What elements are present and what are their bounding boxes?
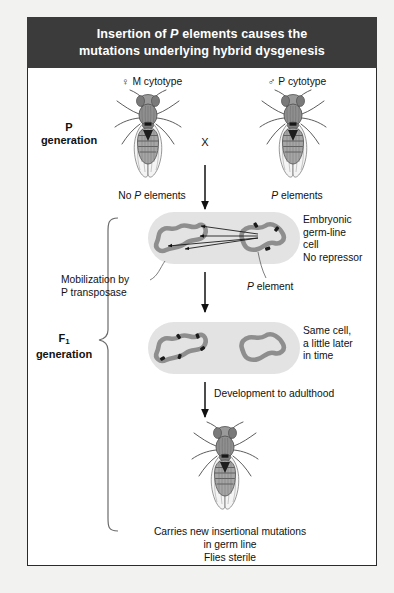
title-line2: mutations underlying hybrid dysgenesis — [79, 44, 325, 58]
outcome-line1: Carries new insertional mutations — [154, 526, 306, 537]
outcome-note: Carries new insertional mutations in ger… — [105, 526, 355, 564]
mobilization-note-line2: P transposase — [61, 287, 127, 298]
male-elements-post: elements — [278, 190, 323, 201]
later-cell-note-line3: in time — [303, 350, 333, 361]
female-elements-post: elements — [141, 190, 186, 201]
f1-generation-subscript: 1 — [65, 337, 69, 346]
embryonic-cell-note-line2: germ-line — [303, 227, 346, 238]
embryonic-cell-note-line4: No repressor — [303, 252, 363, 263]
female-elements-pre: No — [118, 190, 134, 201]
figure-root: Insertion of P elements causes the mutat… — [0, 0, 394, 593]
later-cell-note-line1: Same cell, — [303, 325, 351, 336]
female-parent-label: ♀ M cytotype — [102, 76, 202, 88]
male-elements-label: P elements — [247, 190, 347, 202]
mobilization-note: Mobilization by P transposase — [61, 274, 129, 299]
figure-title: Insertion of P elements causes the mutat… — [69, 26, 335, 60]
development-arrow-label: Development to adulthood — [214, 388, 334, 400]
male-parent-text: P cytotype — [278, 76, 326, 87]
male-symbol-icon: ♂ — [268, 76, 276, 87]
f1-generation-label: F1 generation — [28, 332, 100, 361]
embryonic-cell-note-line3: cell — [303, 239, 318, 250]
female-elements-label: No P elements — [98, 190, 206, 202]
title-line1-italic: P — [170, 27, 179, 41]
p-element-callout-post: element — [254, 281, 294, 292]
figure-title-bar: Insertion of P elements causes the mutat… — [27, 17, 377, 68]
outcome-line3: Flies sterile — [204, 552, 256, 563]
later-cell-note-line2: a little later — [303, 338, 353, 349]
p-generation-line2: generation — [41, 134, 97, 146]
embryonic-cell-note: Embryonic germ-line cell No repressor — [303, 214, 363, 264]
male-parent-label: ♂ P cytotype — [247, 76, 347, 88]
outcome-line2: in germ line — [203, 539, 256, 550]
embryonic-cell-note-line1: Embryonic — [303, 214, 352, 225]
p-generation-line1: P — [65, 121, 72, 133]
title-line1-pre: Insertion of — [97, 27, 170, 41]
female-parent-text: M cytotype — [132, 76, 182, 87]
cross-symbol-text: X — [201, 136, 208, 148]
p-element-callout-italic: P — [247, 281, 254, 292]
later-cell-note: Same cell, a little later in time — [303, 325, 353, 363]
female-symbol-icon: ♀ — [122, 76, 130, 87]
p-element-callout: P element — [247, 281, 293, 293]
development-arrow-text: Development to adulthood — [214, 388, 334, 399]
cross-symbol: X — [196, 136, 214, 148]
title-line1-post: elements causes the — [179, 27, 308, 41]
p-generation-label: P generation — [28, 121, 110, 147]
f1-generation-line2: generation — [36, 348, 92, 360]
mobilization-note-line1: Mobilization by — [61, 274, 129, 285]
